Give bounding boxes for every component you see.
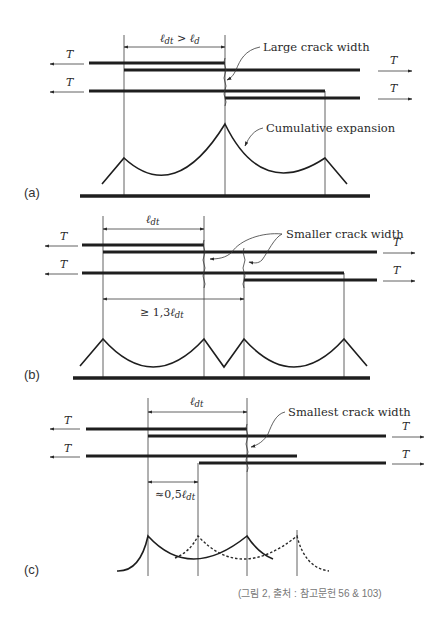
figure-caption: (그림 2, 출처 : 참고문헌 56 & 103) xyxy=(238,588,382,599)
annotation-large-crack: Large crack width xyxy=(263,40,370,54)
tension-label: T xyxy=(390,82,399,95)
dimension-label: ℓdt > ℓd xyxy=(160,32,200,46)
spacing-label: ≥ 1,3ℓdt xyxy=(140,306,184,320)
tension-label: T xyxy=(390,54,399,67)
crack-squiggle xyxy=(203,240,205,288)
annotation-cumulative-expansion: Cumulative expansion xyxy=(266,121,396,135)
tension-label: T xyxy=(66,76,75,89)
tension-label: T xyxy=(64,414,73,427)
cumulative-expansion-curve xyxy=(80,339,367,367)
panel-label: (b) xyxy=(24,367,40,382)
panel-label: (c) xyxy=(24,562,39,577)
annotation-smaller-crack: Smaller crack width xyxy=(286,227,404,241)
dimension-label: ℓdt xyxy=(190,395,204,409)
dimension-label: ℓdt xyxy=(146,213,160,227)
annotation-leader xyxy=(251,412,285,447)
cumulative-expansion-curve-solid xyxy=(117,536,273,571)
tension-label: T xyxy=(402,448,411,461)
panel-c: ℓdt T T T T Smallest crack width ≈0,5ℓdt… xyxy=(24,395,424,577)
annotation-smallest-crack: Smallest crack width xyxy=(288,405,411,419)
tension-label: T xyxy=(393,264,402,277)
spacing-label: ≈0,5ℓdt xyxy=(155,488,196,502)
tension-label: T xyxy=(402,420,411,433)
tension-label: T xyxy=(60,258,69,271)
panel-b: ℓdt T T T T Smaller crack width ≥ 1,3ℓdt… xyxy=(24,213,415,382)
tension-label: T xyxy=(60,230,69,243)
tension-label: T xyxy=(64,442,73,455)
crack-squiggle xyxy=(224,58,226,106)
tension-label: T xyxy=(66,48,75,61)
annotation-leader xyxy=(227,47,260,80)
crack-squiggle xyxy=(246,424,248,472)
annotation-leader xyxy=(245,128,263,146)
panel-a: ℓdt > ℓd T T T T Large crack width Cumul… xyxy=(24,32,412,200)
panel-label: (a) xyxy=(24,185,40,200)
annotation-leader xyxy=(249,234,282,263)
crack-width-diagram: ℓdt > ℓd T T T T Large crack width Cumul… xyxy=(0,0,446,626)
